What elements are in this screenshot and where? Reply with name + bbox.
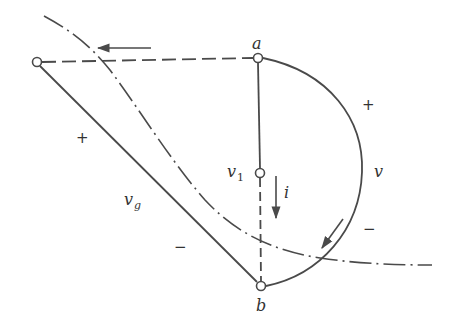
label-a: a <box>252 36 262 52</box>
solid-edge-source-to-b <box>40 66 257 282</box>
source-node <box>33 58 42 67</box>
label-v: v <box>374 164 383 180</box>
v-minus-sign: − <box>363 222 376 237</box>
v-plus-sign: + <box>362 98 375 113</box>
node-a <box>254 54 263 63</box>
node-b <box>257 282 266 291</box>
dashed-edge-v1-to-b <box>260 178 261 281</box>
vg-minus-sign: − <box>174 240 187 255</box>
label-vg: vg <box>124 192 141 208</box>
solid-edge-a-to-v1 <box>258 63 260 168</box>
vg-plus-sign: + <box>76 131 89 146</box>
down-left-arrow-icon <box>322 219 343 248</box>
label-vg-subscript: g <box>134 199 141 212</box>
label-v1-subscript: 1 <box>237 171 244 184</box>
label-b: b <box>256 298 266 314</box>
node-v1 <box>256 169 265 178</box>
label-vg-main: v <box>124 190 133 209</box>
label-v1: v1 <box>227 164 244 180</box>
arc-edge-a-to-b <box>263 58 362 286</box>
dashed-edge-source-to-a <box>42 58 253 62</box>
label-i: i <box>284 185 289 201</box>
label-v1-main: v <box>227 162 236 181</box>
